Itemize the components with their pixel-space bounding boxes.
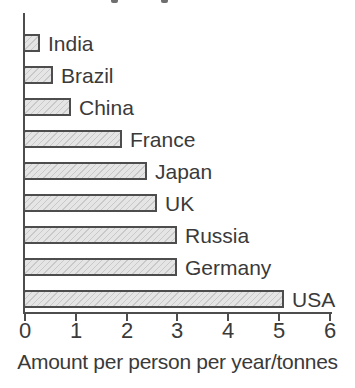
bar-usa bbox=[23, 290, 284, 308]
bar-label: Japan bbox=[155, 161, 212, 182]
bar-label: UK bbox=[165, 193, 194, 214]
bar-label: China bbox=[79, 97, 134, 118]
x-tick-label: 2 bbox=[112, 318, 142, 344]
bar-uk bbox=[23, 194, 157, 212]
bar-label: USA bbox=[292, 289, 335, 310]
bar-japan bbox=[23, 162, 147, 180]
bar-label: Russia bbox=[185, 225, 249, 246]
bar-france bbox=[23, 130, 122, 148]
bar-brazil bbox=[23, 66, 53, 84]
x-tick-label: 1 bbox=[61, 318, 91, 344]
x-tick-label: 5 bbox=[264, 318, 294, 344]
bar-russia bbox=[23, 226, 177, 244]
bar-label: Brazil bbox=[61, 65, 114, 86]
bar-germany bbox=[23, 258, 177, 276]
x-tick-label: 6 bbox=[315, 318, 345, 344]
cropped-title-fragment bbox=[161, 0, 168, 3]
bar-label: India bbox=[48, 33, 94, 54]
bar-china bbox=[23, 98, 71, 116]
x-axis-title: Amount per person per year/tonnes bbox=[0, 349, 355, 375]
bar-label: France bbox=[130, 129, 195, 150]
x-tick-label: 4 bbox=[213, 318, 243, 344]
x-tick-label: 0 bbox=[10, 318, 40, 344]
cropped-title-fragment bbox=[111, 0, 118, 3]
bar-india bbox=[23, 34, 40, 52]
x-tick-label: 3 bbox=[162, 318, 192, 344]
bar-label: Germany bbox=[185, 257, 271, 278]
bar-chart: IndiaBrazilChinaFranceJapanUKRussiaGerma… bbox=[0, 0, 355, 388]
